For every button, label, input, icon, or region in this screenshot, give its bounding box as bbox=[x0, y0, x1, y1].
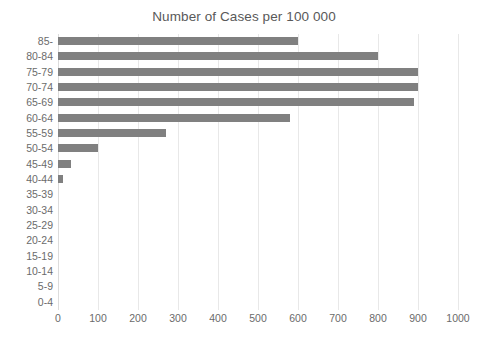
bar-row bbox=[58, 141, 458, 156]
bar-chart: Number of Cases per 100 000 85-80-8475-7… bbox=[0, 0, 488, 341]
bar-row bbox=[58, 95, 458, 110]
x-tick-label: 400 bbox=[209, 312, 227, 324]
y-tick-label: 10-14 bbox=[0, 264, 53, 279]
y-tick-label: 35-39 bbox=[0, 187, 53, 202]
bar-60-64 bbox=[58, 114, 290, 122]
x-tick-label: 900 bbox=[409, 312, 427, 324]
y-tick-label: 75-79 bbox=[0, 65, 53, 80]
x-tick-label: 700 bbox=[329, 312, 347, 324]
bar-85- bbox=[58, 37, 298, 45]
y-tick-label: 50-54 bbox=[0, 141, 53, 156]
gridline-1000 bbox=[458, 34, 459, 310]
bar-row bbox=[58, 233, 458, 248]
y-tick-label: 5-9 bbox=[0, 279, 53, 294]
bar-row bbox=[58, 279, 458, 294]
y-tick-label: 20-24 bbox=[0, 233, 53, 248]
plot-area bbox=[58, 34, 458, 310]
x-axis: 01002003004005006007008009001000 bbox=[58, 312, 458, 328]
x-tick-label: 1000 bbox=[446, 312, 469, 324]
bar-row bbox=[58, 49, 458, 64]
bar-65-69 bbox=[58, 98, 414, 106]
x-tick-label: 100 bbox=[89, 312, 107, 324]
y-tick-label: 45-49 bbox=[0, 157, 53, 172]
bar-50-54 bbox=[58, 144, 98, 152]
bar-row bbox=[58, 218, 458, 233]
bar-row bbox=[58, 172, 458, 187]
x-tick-label: 300 bbox=[169, 312, 187, 324]
bar-row bbox=[58, 203, 458, 218]
y-tick-label: 60-64 bbox=[0, 111, 53, 126]
bar-row bbox=[58, 80, 458, 95]
bar-75-79 bbox=[58, 68, 418, 76]
y-tick-label: 85- bbox=[0, 34, 53, 49]
bar-70-74 bbox=[58, 83, 418, 91]
bar-row bbox=[58, 249, 458, 264]
bar-row bbox=[58, 187, 458, 202]
y-tick-label: 30-34 bbox=[0, 203, 53, 218]
y-tick-label: 55-59 bbox=[0, 126, 53, 141]
y-axis: 85-80-8475-7970-7465-6960-6455-5950-5445… bbox=[0, 34, 53, 310]
y-tick-label: 0-4 bbox=[0, 295, 53, 310]
bar-80-84 bbox=[58, 52, 378, 60]
x-tick-label: 200 bbox=[129, 312, 147, 324]
bar-45-49 bbox=[58, 160, 71, 168]
bar-55-59 bbox=[58, 129, 166, 137]
bar-row bbox=[58, 157, 458, 172]
bar-row bbox=[58, 34, 458, 49]
y-tick-label: 25-29 bbox=[0, 218, 53, 233]
x-tick-label: 500 bbox=[249, 312, 267, 324]
bar-row bbox=[58, 264, 458, 279]
y-tick-label: 65-69 bbox=[0, 95, 53, 110]
y-tick-label: 40-44 bbox=[0, 172, 53, 187]
bar-row bbox=[58, 65, 458, 80]
bar-row bbox=[58, 126, 458, 141]
y-tick-label: 15-19 bbox=[0, 249, 53, 264]
bar-40-44 bbox=[58, 175, 63, 183]
y-tick-label: 80-84 bbox=[0, 49, 53, 64]
bar-rows bbox=[58, 34, 458, 310]
bar-row bbox=[58, 111, 458, 126]
x-tick-label: 0 bbox=[55, 312, 61, 324]
x-tick-label: 800 bbox=[369, 312, 387, 324]
y-tick-label: 70-74 bbox=[0, 80, 53, 95]
bar-row bbox=[58, 295, 458, 310]
x-tick-label: 600 bbox=[289, 312, 307, 324]
chart-title: Number of Cases per 100 000 bbox=[0, 9, 488, 24]
